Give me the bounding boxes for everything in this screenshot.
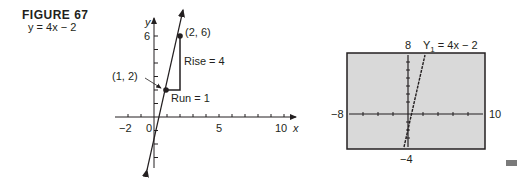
point-1-2 (163, 87, 169, 93)
calc-ymax-label: 8 (405, 39, 411, 51)
tick-label-neg2: −2 (119, 122, 132, 134)
tick-label-0: 0 (146, 122, 152, 134)
point-label-leader (145, 78, 161, 88)
point-label-2-6: (2, 6) (185, 26, 211, 38)
tick-label-5: 5 (216, 122, 222, 134)
point-label-1-2: (1, 2) (112, 70, 138, 82)
x-axis-label: x (292, 122, 299, 134)
run-label: Run = 1 (171, 92, 210, 104)
line-graph: −2 0 5 10 x y 6 (2, 6) Rise = 4 Run = 1 … (0, 0, 532, 183)
calc-xmax-label: 10 (489, 108, 501, 120)
tick-label-10: 10 (275, 122, 287, 134)
calculator-screen (347, 53, 485, 149)
rise-label: Rise = 4 (184, 55, 225, 67)
end-of-section-marker (506, 160, 517, 166)
calc-ymin-label: −4 (400, 153, 413, 165)
tick-label-y6: 6 (144, 30, 150, 42)
calc-function-label: Y1 = 4x − 2 (423, 39, 478, 54)
y-axis-label: y (144, 16, 152, 28)
rise-run-triangle (166, 36, 180, 90)
point-2-6 (177, 33, 183, 39)
calc-xmin-label: −8 (331, 108, 344, 120)
y-ticks (154, 36, 158, 158)
